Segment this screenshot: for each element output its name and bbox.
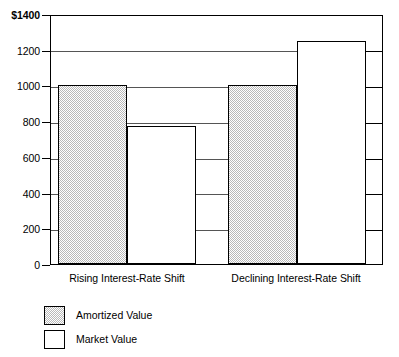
- bar-rising-amortized-value: [58, 85, 127, 264]
- legend-item-market-value: Market Value: [44, 327, 152, 351]
- y-axis-tick-mark-400: [42, 194, 50, 195]
- plot-area: [50, 15, 383, 265]
- chart-legend: Amortized Value Market Value: [44, 303, 152, 351]
- bar-rising-market-value: [127, 126, 196, 264]
- right-tick-1200: [366, 51, 382, 52]
- legend-item-amortized-value: Amortized Value: [44, 303, 152, 327]
- y-axis-tick-label-1400: $1400: [0, 10, 40, 20]
- y-axis-tick-label-1200: 1200: [0, 46, 40, 56]
- y-axis-tick-mark-0: [42, 265, 50, 266]
- y-axis-tick-mark-800: [42, 122, 50, 123]
- bar-declining-market-value: [297, 41, 366, 264]
- right-tick-600: [366, 159, 382, 160]
- bar-chart: $1400 1200 1000 800 600 400 200 0: [0, 0, 399, 357]
- y-axis-tick-mark-1200: [42, 51, 50, 52]
- bar-declining-amortized-value: [228, 85, 297, 264]
- y-axis-tick-label-800: 800: [0, 117, 40, 127]
- right-tick-200: [366, 230, 382, 231]
- legend-swatch-amortized-value: [44, 306, 65, 325]
- y-axis-tick-label-600: 600: [0, 153, 40, 163]
- plot-inner: [51, 16, 382, 264]
- right-tick-1000: [366, 87, 382, 88]
- y-axis-tick-mark-1400: [42, 15, 50, 16]
- y-axis-tick-label-1000: 1000: [0, 81, 40, 91]
- legend-swatch-market-value: [44, 330, 65, 349]
- legend-label-market-value: Market Value: [76, 333, 137, 345]
- y-axis-tick-mark-1000: [42, 86, 50, 87]
- y-axis-tick-mark-200: [42, 229, 50, 230]
- x-axis-category-label-declining: Declining Interest-Rate Shift: [171, 272, 399, 284]
- legend-label-amortized-value: Amortized Value: [76, 309, 152, 321]
- right-tick-800: [366, 123, 382, 124]
- y-axis-tick-label-400: 400: [0, 189, 40, 199]
- y-axis-tick-label-0: 0: [0, 260, 40, 270]
- y-axis-tick-mark-600: [42, 158, 50, 159]
- right-tick-400: [366, 194, 382, 195]
- y-axis-tick-label-200: 200: [0, 224, 40, 234]
